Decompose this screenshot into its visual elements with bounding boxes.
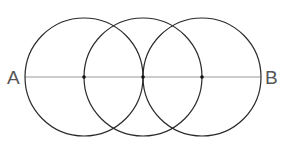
point-1 — [82, 75, 86, 79]
diagram-canvas — [0, 0, 284, 149]
point-3 — [200, 75, 204, 79]
point-2 — [141, 75, 145, 79]
label-a: A — [7, 68, 20, 87]
label-b: B — [265, 68, 278, 87]
